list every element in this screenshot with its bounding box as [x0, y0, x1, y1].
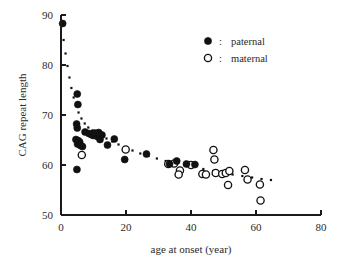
data-point-maternal [211, 156, 218, 163]
ticks-layer: 0204060805060708090 [42, 9, 327, 233]
data-point-maternal [78, 151, 85, 158]
x-tick-label-40: 40 [186, 221, 198, 233]
trend-dot [63, 39, 65, 41]
trend-dot [139, 152, 141, 154]
data-point-paternal [79, 143, 86, 150]
trend-dot [131, 149, 133, 151]
x-axis-title: age at onset (year) [151, 243, 232, 256]
trend-dot [84, 122, 86, 124]
trend-dot [73, 96, 75, 98]
x-tick-label-80: 80 [316, 221, 328, 233]
x-tick-label-60: 60 [251, 221, 263, 233]
data-point-maternal [241, 166, 248, 173]
data-point-maternal [122, 146, 129, 153]
data-point-paternal [143, 151, 150, 158]
trend-dot [105, 137, 107, 139]
x-tick-label-20: 20 [121, 221, 133, 233]
x-tick-label-0: 0 [58, 221, 64, 233]
data-point-paternal [121, 156, 128, 163]
trend-dot [64, 52, 66, 54]
legend-separator-paternal: : [219, 36, 222, 47]
trend-dot [77, 111, 79, 113]
series-maternal-points [76, 138, 265, 204]
data-point-paternal [73, 166, 80, 173]
data-point-maternal [202, 171, 209, 178]
legend-open-circle-icon [204, 54, 211, 61]
data-point-paternal [104, 142, 111, 149]
data-point-paternal [166, 161, 173, 168]
data-point-maternal [210, 146, 217, 153]
data-point-paternal [98, 132, 105, 139]
data-point-maternal [224, 181, 231, 188]
data-point-paternal [183, 161, 190, 168]
scatter-plot-figure: 0204060805060708090 : paternal : materna… [0, 0, 338, 271]
y-tick-label-90: 90 [42, 9, 54, 21]
trend-dot [117, 143, 119, 145]
y-tick-label-60: 60 [42, 159, 54, 171]
trend-dot [80, 117, 82, 119]
trend-dot [260, 178, 262, 180]
axes-layer [61, 15, 321, 215]
y-tick-label-70: 70 [42, 109, 54, 121]
legend-label-paternal: paternal [231, 36, 265, 47]
chart-canvas: 0204060805060708090 : paternal : materna… [0, 0, 338, 271]
data-point-paternal [191, 161, 198, 168]
data-point-maternal [257, 197, 264, 204]
y-tick-label-80: 80 [42, 59, 54, 71]
trend-dot [66, 65, 68, 67]
y-axis-title: CAG repeat length [16, 73, 28, 157]
trend-dot [270, 179, 272, 181]
data-point-paternal [74, 101, 81, 108]
trend-dot [156, 157, 158, 159]
chart-legend: : paternal : maternal [204, 36, 267, 64]
trend-dot [241, 175, 243, 177]
legend-separator-maternal: : [219, 53, 222, 64]
trend-dot [68, 76, 70, 78]
data-point-maternal [175, 171, 182, 178]
data-point-paternal [74, 125, 81, 132]
data-point-maternal [226, 167, 233, 174]
y-tick-label-50: 50 [42, 209, 54, 221]
data-point-maternal [244, 176, 251, 183]
legend-filled-circle-icon [204, 37, 211, 44]
legend-label-maternal: maternal [231, 53, 268, 64]
trend-dot [70, 87, 72, 89]
data-point-paternal [59, 20, 66, 27]
data-point-maternal [256, 181, 263, 188]
trend-dot [87, 126, 89, 128]
data-point-paternal [173, 158, 180, 165]
data-point-paternal [74, 91, 81, 98]
data-point-paternal [111, 136, 118, 143]
